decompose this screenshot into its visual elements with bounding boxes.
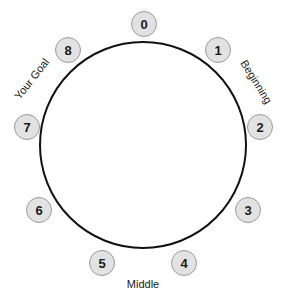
step-badge-6[interactable]: 6 [26,197,52,223]
step-badge-0[interactable]: 0 [131,11,157,37]
step-badge-5-label: 5 [98,256,105,269]
step-badge-2[interactable]: 2 [247,114,273,140]
step-badge-0-label: 0 [140,17,147,30]
step-badge-5[interactable]: 5 [89,250,115,276]
step-badge-6-label: 6 [35,203,42,216]
step-badge-1-label: 1 [214,43,221,56]
step-badge-4[interactable]: 4 [171,250,197,276]
label-middle: Middle [127,279,159,290]
step-badge-7-label: 7 [23,120,30,133]
step-badge-8[interactable]: 8 [55,37,81,63]
step-badge-8-label: 8 [64,43,71,56]
step-badge-2-label: 2 [256,120,263,133]
step-badge-7[interactable]: 7 [14,114,40,140]
step-badge-3-label: 3 [244,203,251,216]
step-badge-1[interactable]: 1 [205,37,231,63]
main-circle-graphic [0,0,286,300]
main-circle [40,42,246,248]
step-badge-4-label: 4 [180,256,187,269]
circular-step-diagram: 0 1 2 3 4 5 6 7 8 Beginning Middle Your … [0,0,286,300]
step-badge-3[interactable]: 3 [235,197,261,223]
